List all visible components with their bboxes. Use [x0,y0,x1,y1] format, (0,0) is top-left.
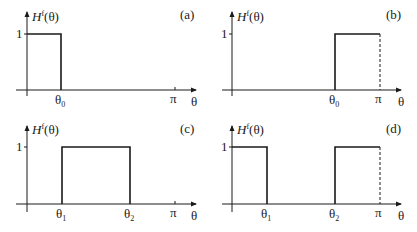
y-tick-label: 1 [16,26,23,41]
x-tick-label-theta1: θ1 [261,206,271,223]
panel-label: (c) [180,121,194,136]
x-axis-label: θ [191,208,197,223]
y-tick-label: 1 [221,26,228,41]
filter-response-diagram: Hf(θ) 1 (a) θ0 π θ Hf(θ) 1 (b) θ0 π θ Hf… [0,0,417,232]
panel-label: (d) [386,121,401,136]
y-tick-label: 1 [221,139,228,154]
panel-label: (b) [386,7,401,22]
panel-c: Hf(θ) 1 (c) θ1 θ2 π θ [16,121,197,223]
x-tick-label-pi: π [170,205,177,220]
panel-d: Hf(θ) 1 (d) θ1 θ2 π θ [221,121,404,223]
y-axis-label: Hf(θ) [236,9,264,24]
x-axis-label: θ [398,208,404,223]
x-axis-label: θ [398,94,404,109]
x-axis-label: θ [191,94,197,109]
x-tick-label-theta0: θ0 [329,92,339,109]
x-tick-label-theta2: θ2 [124,206,134,223]
y-axis-label: Hf(θ) [31,122,59,137]
x-tick-label-theta2: θ2 [329,206,339,223]
x-tick-label-pi: π [375,205,382,220]
x-tick-label-theta1: θ1 [56,206,66,223]
x-tick-label-pi: π [375,91,382,106]
panel-a: Hf(θ) 1 (a) θ0 π θ [16,7,197,109]
panel-label: (a) [180,7,194,22]
response-curve [62,147,130,204]
response-curve-high [335,147,380,204]
response-curve-low [232,147,267,204]
y-tick-label: 1 [16,139,23,154]
x-tick-label-pi: π [170,91,177,106]
response-curve [335,34,380,90]
response-curve [27,34,61,90]
y-axis-label: Hf(θ) [31,9,59,24]
y-axis-label: Hf(θ) [236,122,264,137]
x-tick-label-theta0: θ0 [55,92,65,109]
panel-b: Hf(θ) 1 (b) θ0 π θ [221,7,404,109]
